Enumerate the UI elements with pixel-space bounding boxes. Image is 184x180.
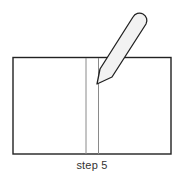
step-caption: step 5 xyxy=(0,159,184,171)
diagram-canvas xyxy=(0,0,184,180)
paper-rectangle xyxy=(13,58,171,155)
